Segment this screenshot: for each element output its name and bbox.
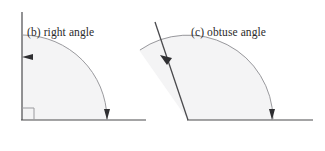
angle-diagram-figure: (b) right angle (c) obtuse angle xyxy=(0,0,325,151)
obtuse-angle-sector-fill xyxy=(139,34,273,120)
angle-diagram-canvas xyxy=(0,0,325,151)
right-angle-sector-fill xyxy=(22,35,107,120)
caption-obtuse-angle: (c) obtuse angle xyxy=(191,26,266,39)
caption-right-angle: (b) right angle xyxy=(27,26,94,39)
